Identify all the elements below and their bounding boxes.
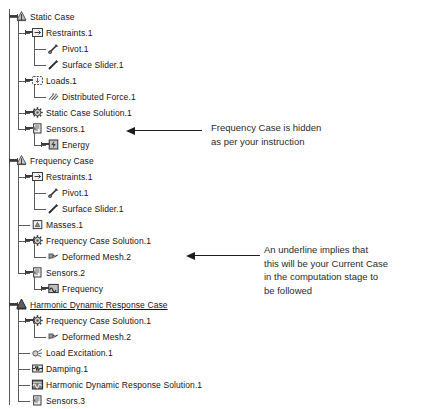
- tree-node-label[interactable]: Static Case: [30, 10, 75, 24]
- tree-node-label[interactable]: Energy: [62, 138, 90, 152]
- callout-arrow-frequency-case: [126, 126, 202, 135]
- deformed-mesh-icon: [47, 330, 60, 343]
- harmonic-case-icon: [15, 298, 28, 311]
- tree-node-row[interactable]: Harmonic Dynamic Response Solution.1: [0, 377, 260, 393]
- tree-node-row[interactable]: Sensors.2: [0, 265, 260, 281]
- masses-icon: [31, 218, 44, 231]
- tree-node-row[interactable]: Load Excitation.1: [0, 345, 260, 361]
- frequency-sensor-icon: [47, 282, 60, 295]
- tree-node-row[interactable]: Static Case: [0, 9, 260, 25]
- tree-node-label[interactable]: Distributed Force.1: [62, 90, 136, 104]
- tree-node-row[interactable]: Frequency: [0, 281, 260, 297]
- sensors-icon: [31, 394, 44, 407]
- tree-node-row[interactable]: Frequency Case Solution.1: [0, 313, 260, 329]
- tree-node-label[interactable]: Pivot.1: [62, 186, 89, 200]
- tree-node-label[interactable]: Harmonic Dynamic Response Solution.1: [46, 378, 202, 392]
- tree-node-label[interactable]: Deformed Mesh.2: [62, 250, 131, 264]
- distributed-force-icon: [47, 90, 60, 103]
- tree-node-label[interactable]: Restraints.1: [46, 26, 93, 40]
- tree-node-label[interactable]: Damping.1: [46, 362, 88, 376]
- tree-node-row[interactable]: Sensors.3: [0, 393, 260, 409]
- loads-icon: [31, 74, 44, 87]
- tree-node-label[interactable]: Masses.1: [46, 218, 83, 232]
- callout-arrow-harmonic-case: [186, 251, 260, 260]
- tree-node-label[interactable]: Sensors.1: [46, 122, 85, 136]
- tree-node-label[interactable]: Restraints.1: [46, 170, 93, 184]
- tree-node-label[interactable]: Harmonic Dynamic Response Case: [30, 298, 168, 312]
- tree-node-label[interactable]: Frequency: [62, 282, 103, 296]
- static-case-icon: [15, 10, 28, 23]
- surface-slider-icon: [47, 202, 60, 215]
- restraints-icon: [31, 26, 44, 39]
- tree-node-row[interactable]: Surface Slider.1: [0, 201, 260, 217]
- tree-node-label[interactable]: Static Case Solution.1: [46, 106, 132, 120]
- load-excitation-icon: [31, 346, 44, 359]
- tree-node-row[interactable]: Deformed Mesh.2: [0, 329, 260, 345]
- tree-node-row[interactable]: Distributed Force.1: [0, 89, 260, 105]
- tree-node-label[interactable]: Frequency Case Solution.1: [46, 314, 151, 328]
- tree-node-row[interactable]: Harmonic Dynamic Response Case: [0, 297, 260, 313]
- tree-node-label[interactable]: Pivot.1: [62, 42, 89, 56]
- tree-node-row[interactable]: Damping.1: [0, 361, 260, 377]
- tree-node-label[interactable]: Loads.1: [46, 74, 77, 88]
- tree-node-row[interactable]: Static Case Solution.1: [0, 105, 260, 121]
- pivot-icon: [47, 42, 60, 55]
- energy-sensor-icon: [47, 138, 60, 151]
- tree-node-row[interactable]: Frequency Case Solution.1: [0, 233, 260, 249]
- deformed-mesh-icon: [47, 250, 60, 263]
- tree-node-label[interactable]: Surface Slider.1: [62, 58, 124, 72]
- annotation-current-case-underline: An underline implies that this will be y…: [264, 243, 440, 297]
- sensors-icon: [31, 122, 44, 135]
- annotation-frequency-case-hidden: Frequency Case is hidden as per your ins…: [211, 121, 426, 148]
- arrow-shaft: [132, 130, 202, 131]
- sensors-icon: [31, 266, 44, 279]
- tree-node-label[interactable]: Sensors.2: [46, 266, 85, 280]
- solution-icon: [31, 314, 44, 327]
- tree-node-row[interactable]: Frequency Case: [0, 153, 260, 169]
- surface-slider-icon: [47, 58, 60, 71]
- arrow-shaft: [192, 255, 260, 256]
- solution-icon: [31, 234, 44, 247]
- tree-node-row[interactable]: Surface Slider.1: [0, 57, 260, 73]
- tree-node-label[interactable]: Surface Slider.1: [62, 202, 124, 216]
- tree-node-label[interactable]: Load Excitation.1: [46, 346, 113, 360]
- analysis-specification-tree[interactable]: Static CaseRestraints.1Pivot.1Surface Sl…: [0, 0, 260, 359]
- tree-node-row[interactable]: Restraints.1: [0, 169, 260, 185]
- pivot-icon: [47, 186, 60, 199]
- tree-node-row[interactable]: Masses.1: [0, 217, 260, 233]
- tree-node-row[interactable]: Pivot.1: [0, 41, 260, 57]
- harmonic-solution-icon: [31, 378, 44, 391]
- tree-node-label[interactable]: Sensors.3: [46, 394, 85, 408]
- tree-node-label[interactable]: Deformed Mesh.2: [62, 330, 131, 344]
- tree-node-label[interactable]: Frequency Case Solution.1: [46, 234, 151, 248]
- tree-node-label[interactable]: Frequency Case: [30, 154, 94, 168]
- restraints-icon: [31, 170, 44, 183]
- tree-node-row[interactable]: Pivot.1: [0, 185, 260, 201]
- damping-icon: [31, 362, 44, 375]
- tree-node-row[interactable]: Restraints.1: [0, 25, 260, 41]
- tree-node-row[interactable]: Loads.1: [0, 73, 260, 89]
- solution-icon: [31, 106, 44, 119]
- frequency-case-icon: [15, 154, 28, 167]
